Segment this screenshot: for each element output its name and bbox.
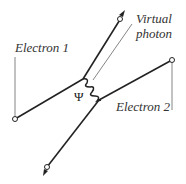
arrow-up-icon xyxy=(119,10,125,17)
electron-2-outgoing-line xyxy=(47,100,99,167)
electron-1-end-point xyxy=(118,17,123,22)
psi-symbol: Ψ xyxy=(74,89,84,104)
electron-1-label: Electron 1 xyxy=(14,40,69,55)
electron-1-start-point xyxy=(13,117,18,122)
electron-1-incoming-line xyxy=(15,79,83,119)
arrow-down-icon xyxy=(43,169,48,176)
electron-2-incoming-line xyxy=(99,60,172,100)
electron-2-label: Electron 2 xyxy=(115,99,171,114)
electron-2-end-point xyxy=(45,165,50,170)
feynman-diagram: Electron 1 Electron 2 Virtual photon Ψ xyxy=(0,0,186,184)
virtual-photon-label-2: photon xyxy=(135,26,172,41)
virtual-photon-wave xyxy=(83,79,101,101)
electron-2-start-point xyxy=(170,58,175,63)
virtual-photon-label-1: Virtual xyxy=(136,11,172,26)
